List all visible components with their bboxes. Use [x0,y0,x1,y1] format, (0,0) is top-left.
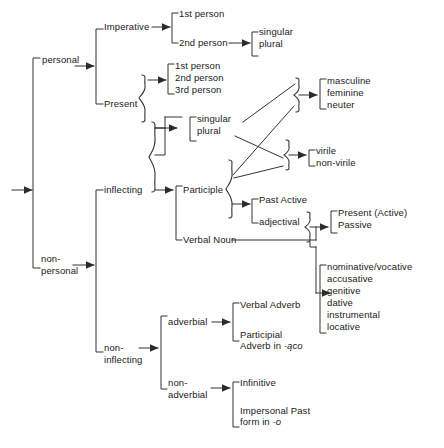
impersonal-past-suffix: -o [272,416,281,427]
node-virile[interactable]: virile [316,145,336,156]
node-case-locative[interactable]: locative [327,321,360,332]
node-case-nominative-vocative[interactable]: nominative/vocative [327,261,412,272]
participial-adverb-line2-prefix: Adverb in [240,340,284,351]
node-non-personal[interactable]: non- personal [41,253,78,276]
node-passive[interactable]: Passive [338,219,372,230]
node-imperative-singular[interactable]: singular [259,26,293,37]
node-infinitive[interactable]: Infinitive [240,377,276,388]
node-personal[interactable]: personal [42,54,79,65]
node-present-active[interactable]: Present (Active) [338,207,407,218]
node-case-accusative[interactable]: accusative [327,273,373,284]
node-participle[interactable]: Participle [183,184,223,195]
node-adjectival[interactable]: adjectival [259,216,300,227]
node-masculine[interactable]: masculine [327,75,371,86]
node-verbal-noun[interactable]: Verbal Noun [183,234,236,245]
node-non-inflecting[interactable]: non- inflecting [104,342,143,365]
impersonal-past-line2-prefix: form in [240,416,272,427]
node-neuter[interactable]: neuter [327,99,355,110]
tree-connector-lines [0,0,444,448]
node-inflecting[interactable]: inflecting [104,184,143,195]
node-singular[interactable]: singular [197,113,231,124]
node-feminine[interactable]: feminine [327,87,364,98]
node-participial-adverb[interactable]: ParticipialAdverb in -ąco [240,329,303,351]
node-case-genitive[interactable]: genitive [327,285,361,296]
node-imperative-1st-person[interactable]: 1st person [179,8,224,19]
node-present-2nd-person[interactable]: 2nd person [175,72,224,83]
node-imperative-2nd-person[interactable]: 2nd person [179,37,228,48]
node-past-active[interactable]: Past Active [259,194,307,205]
node-non-adverbial[interactable]: non- adverbial [168,377,207,400]
participial-adverb-suffix: -ąco [284,340,303,351]
verb-classification-tree-diagram: personal non- personal Imperative Presen… [0,0,444,448]
node-imperative[interactable]: Imperative [104,21,149,32]
node-plural[interactable]: plural [197,125,221,136]
node-adverbial[interactable]: adverbial [168,316,207,327]
node-verbal-adverb[interactable]: Verbal Adverb [240,299,300,310]
node-present-1st-person[interactable]: 1st person [175,60,220,71]
participial-adverb-line1: Participial [240,329,282,340]
node-present-3rd-person[interactable]: 3rd person [175,84,221,95]
node-impersonal-past[interactable]: Impersonal Pastform in -o [240,405,310,427]
node-imperative-plural[interactable]: plural [259,38,283,49]
impersonal-past-line1: Impersonal Past [240,405,310,416]
node-non-virile[interactable]: non-virile [316,157,356,168]
node-case-instrumental[interactable]: instrumental [327,309,380,320]
node-case-dative[interactable]: dative [327,297,353,308]
node-present[interactable]: Present [104,98,137,109]
